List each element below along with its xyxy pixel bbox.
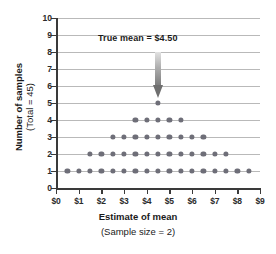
data-point — [235, 168, 240, 173]
x-axis-tick — [192, 188, 193, 194]
data-point — [110, 134, 115, 139]
y-axis-tick-label: 9 — [36, 30, 52, 40]
data-point — [189, 168, 194, 173]
data-point — [133, 134, 138, 139]
data-point — [155, 151, 160, 156]
data-point — [133, 168, 138, 173]
y-axis-subtitle: (Total = 45) — [24, 22, 35, 192]
data-point — [76, 168, 81, 173]
x-axis-tick — [147, 188, 148, 194]
data-point — [133, 117, 138, 122]
x-axis-tick — [124, 188, 125, 194]
data-point — [167, 117, 172, 122]
data-point — [144, 134, 149, 139]
data-point — [144, 151, 149, 156]
data-point — [110, 168, 115, 173]
data-point — [201, 151, 206, 156]
data-point — [65, 168, 70, 173]
y-axis-tick-label: 10 — [36, 13, 52, 23]
y-axis-tick-label: 5 — [36, 98, 52, 108]
dotplot-chart: $0$1$2$3$4$5$6$7$8$9 012345678910 True m… — [0, 0, 276, 254]
y-axis-tick-label: 7 — [36, 64, 52, 74]
data-point — [201, 134, 206, 139]
data-point — [178, 134, 183, 139]
x-axis-tick-label: $9 — [247, 196, 273, 206]
x-axis-tick — [260, 188, 261, 194]
data-point — [155, 100, 160, 105]
y-axis-tick-label: 2 — [36, 149, 52, 159]
x-axis-tick — [237, 188, 238, 194]
data-point — [167, 168, 172, 173]
x-axis-tick — [101, 188, 102, 194]
y-axis-tick-label: 8 — [36, 47, 52, 57]
data-point — [223, 168, 228, 173]
arrow-shaft — [155, 52, 161, 85]
data-point — [155, 117, 160, 122]
x-axis-tick — [215, 188, 216, 194]
y-axis-tick-label: 0 — [36, 183, 52, 193]
data-point — [99, 168, 104, 173]
data-point — [178, 168, 183, 173]
data-point — [121, 134, 126, 139]
x-axis-tick — [169, 188, 170, 194]
true-mean-arrow-icon — [153, 52, 164, 98]
true-mean-annotation-label: True mean = $4.50 — [98, 33, 178, 43]
x-axis-line — [56, 188, 261, 190]
data-point — [189, 151, 194, 156]
data-point — [144, 168, 149, 173]
data-point — [87, 168, 92, 173]
data-point — [155, 134, 160, 139]
data-point — [99, 151, 104, 156]
y-axis-tick-label: 1 — [36, 166, 52, 176]
data-point — [178, 151, 183, 156]
y-axis-tick-label: 6 — [36, 81, 52, 91]
data-point — [87, 151, 92, 156]
data-point — [223, 151, 228, 156]
data-point — [178, 117, 183, 122]
data-point — [212, 151, 217, 156]
data-point — [133, 151, 138, 156]
x-axis-tick — [79, 188, 80, 194]
arrow-head — [153, 85, 163, 98]
y-axis-tick-label: 4 — [36, 115, 52, 125]
data-point — [110, 151, 115, 156]
x-axis-tick — [56, 188, 57, 194]
data-point — [167, 151, 172, 156]
data-point — [201, 168, 206, 173]
data-point — [121, 151, 126, 156]
y-axis-tick-label: 3 — [36, 132, 52, 142]
data-point — [121, 168, 126, 173]
x-axis-subtitle: (Sample size = 2) — [0, 226, 276, 237]
y-axis-line — [56, 18, 58, 189]
y-axis-title: Number of samples — [13, 22, 24, 192]
data-point — [167, 134, 172, 139]
data-point — [189, 134, 194, 139]
data-point — [144, 117, 149, 122]
data-point — [246, 168, 251, 173]
data-point — [212, 168, 217, 173]
data-point — [155, 168, 160, 173]
x-axis-title: Estimate of mean — [0, 211, 276, 222]
y-axis-title-group: Number of samples (Total = 45) — [13, 22, 37, 192]
gridline — [56, 18, 260, 19]
